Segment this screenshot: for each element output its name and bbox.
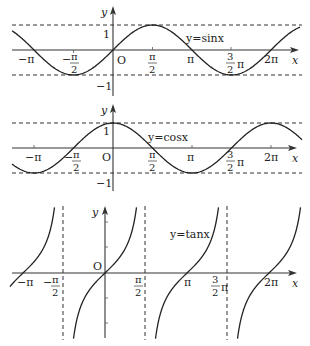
tick-label-3pi-over-2: 3 2 π: [226, 149, 244, 173]
tick-label-neg-pi: −π: [18, 53, 34, 66]
svg-text:2: 2: [73, 162, 79, 173]
svg-text:π: π: [149, 149, 156, 160]
x-axis-label: x: [292, 277, 299, 290]
tick-label-neg1: −1: [96, 177, 112, 190]
origin-label: O: [102, 151, 111, 164]
tick-label-pi-over-2: π 2: [134, 274, 143, 298]
tick-label-pi-over-2: π 2: [148, 51, 157, 75]
svg-text:−: −: [64, 151, 73, 164]
tick-label-2pi: 2π: [264, 53, 278, 66]
tick-label-pi-over-2: π 2: [148, 149, 157, 173]
svg-text:−: −: [62, 53, 71, 66]
tick-label-3pi-over-2: 3 2 π: [211, 274, 228, 298]
tick-label-pi: π: [187, 53, 194, 66]
function-label-tan: y=tanx: [169, 228, 210, 241]
svg-text:π: π: [71, 51, 78, 62]
svg-text:2: 2: [149, 64, 155, 75]
svg-text:2: 2: [149, 162, 155, 173]
function-label-cos: y=cosx: [147, 131, 189, 144]
svg-text:π: π: [237, 156, 244, 169]
tick-label-neg-pi-over-2: − π 2: [62, 51, 79, 75]
tick-label-neg-pi-over-2: − π 2: [43, 274, 60, 298]
tick-label-1: 1: [103, 125, 110, 138]
svg-text:2: 2: [71, 64, 77, 75]
svg-text:π: π: [237, 58, 244, 71]
tick-label-2pi: 2π: [264, 151, 278, 164]
svg-text:π: π: [221, 281, 228, 294]
svg-text:π: π: [73, 149, 80, 160]
tick-label-neg-pi: −π: [17, 276, 33, 289]
tick-label-pi: π: [184, 276, 191, 289]
cos-panel: y 1 −1 O x y=cosx −π − π 2 π 2 π 3 2 π 2…: [12, 104, 302, 191]
trig-function-graphs: y 1 −1 O x y=sinx −π − π 2 π 2 π 3 2 π 2…: [0, 0, 310, 346]
tick-label-2pi: 2π: [264, 276, 278, 289]
tick-label-pi: π: [187, 151, 194, 164]
svg-text:−: −: [43, 276, 52, 289]
svg-text:3: 3: [212, 274, 218, 285]
tick-label-neg1: −1: [96, 80, 112, 93]
svg-text:2: 2: [52, 287, 58, 298]
tick-label-neg-pi-over-2: − π 2: [64, 149, 81, 173]
origin-label: O: [93, 260, 102, 273]
function-label-sin: y=sinx: [185, 32, 225, 45]
svg-text:3: 3: [227, 149, 233, 160]
tan-panel: y O x y=tanx −π − π 2 π 2 π 3 2 π 2π: [10, 206, 301, 340]
svg-text:π: π: [135, 274, 142, 285]
svg-text:2: 2: [227, 64, 233, 75]
y-axis-label: y: [100, 6, 108, 19]
x-axis-label: x: [292, 54, 299, 67]
svg-text:π: π: [52, 274, 59, 285]
tick-label-neg-pi: −π: [25, 151, 41, 164]
svg-text:2: 2: [212, 287, 218, 298]
x-axis-label: x: [292, 152, 299, 165]
tick-label-1: 1: [103, 28, 110, 41]
tick-label-3pi-over-2: 3 2 π: [226, 51, 244, 75]
svg-text:π: π: [149, 51, 156, 62]
svg-text:2: 2: [135, 287, 141, 298]
svg-text:2: 2: [227, 162, 233, 173]
y-axis-label: y: [100, 104, 108, 117]
sin-panel: y 1 −1 O x y=sinx −π − π 2 π 2 π 3 2 π 2…: [12, 6, 302, 96]
svg-text:3: 3: [227, 51, 233, 62]
y-axis-label: y: [91, 206, 99, 219]
origin-label: O: [117, 54, 126, 67]
